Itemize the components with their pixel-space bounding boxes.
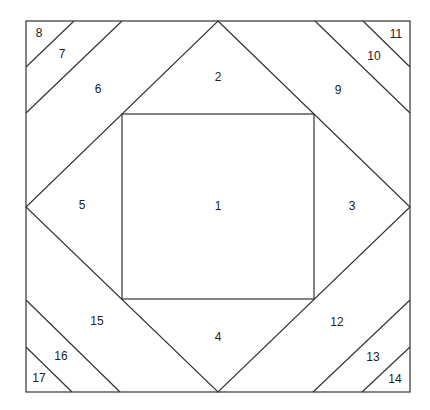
piece-label-7: 7 [59, 47, 66, 61]
piece-label-9: 9 [335, 83, 342, 97]
piece-label-2: 2 [215, 70, 222, 84]
piece-label-15: 15 [90, 314, 104, 328]
strip-line-8-7 [26, 21, 74, 67]
piece-label-14: 14 [388, 372, 402, 386]
piece-label-11: 11 [390, 27, 403, 41]
piece-label-3: 3 [349, 199, 356, 213]
piece-label-1: 1 [215, 199, 222, 213]
piece-label-16: 16 [54, 349, 68, 363]
piece-label-4: 4 [215, 330, 222, 344]
piece-label-17: 17 [32, 371, 46, 385]
piece-label-6: 6 [95, 82, 102, 96]
piece-label-8: 8 [36, 26, 43, 40]
piece-labels: 1234567891011121314151617 [32, 26, 402, 386]
piece-label-12: 12 [330, 315, 344, 329]
quilt-diagram: 1234567891011121314151617 [0, 0, 430, 410]
piece-label-13: 13 [366, 350, 380, 364]
piece-label-5: 5 [79, 198, 86, 212]
piece-label-10: 10 [367, 49, 381, 63]
